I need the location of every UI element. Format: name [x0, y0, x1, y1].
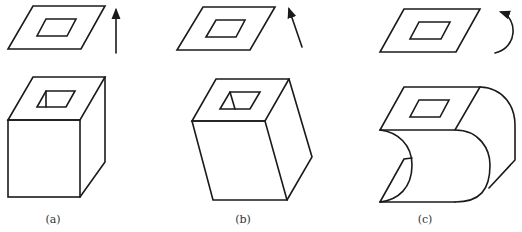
panel-label-c: (c) — [418, 213, 433, 226]
panel-label-b: (b) — [235, 213, 251, 226]
top-face — [8, 77, 105, 120]
plate-outline — [380, 9, 480, 52]
profile-plate-c — [380, 9, 480, 52]
panel-c: (c) — [380, 9, 515, 226]
profile-plate-a — [8, 6, 105, 49]
front-face — [192, 121, 287, 200]
curved-arrow-icon — [495, 12, 513, 53]
plate-hole — [410, 22, 450, 39]
inner-curved-edge — [380, 130, 412, 202]
top-face — [380, 87, 480, 130]
plate-outline — [177, 7, 275, 50]
panel-b: (b) — [177, 7, 312, 226]
panel-label-a: (a) — [45, 213, 60, 226]
plate-outline — [8, 6, 105, 49]
hole — [37, 91, 75, 107]
solid-c — [380, 87, 515, 202]
side-face — [80, 77, 105, 197]
hole — [220, 92, 260, 109]
profile-plate-b — [177, 7, 275, 50]
solid-b — [192, 79, 312, 200]
sweep-diagram: (a) (b) (c — [0, 0, 522, 232]
panel-a: (a) — [8, 6, 116, 226]
top-face — [192, 79, 289, 121]
solid-a — [8, 77, 105, 197]
hole — [410, 100, 449, 117]
inner-bottom-edge — [380, 158, 412, 202]
side-face — [287, 79, 312, 200]
middle-curved-edge — [455, 130, 490, 202]
front-face — [8, 120, 80, 197]
plate-hole — [37, 19, 76, 36]
hole-inner-edge — [230, 92, 235, 109]
outer-curved-edge — [480, 87, 515, 188]
plate-hole — [206, 20, 245, 37]
oblique-arrow-icon — [289, 9, 302, 47]
